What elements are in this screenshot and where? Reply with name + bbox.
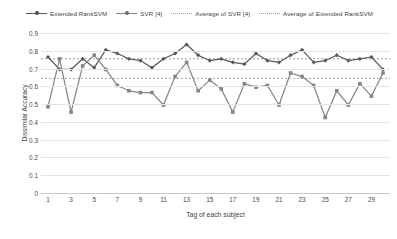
data-point-marker	[46, 105, 50, 109]
legend-label: Average of Extended RankSVM	[283, 10, 373, 17]
x-axis-tick-label: 25	[322, 196, 329, 203]
legend-item-average-svr: Average of SVR [4]	[171, 9, 250, 17]
x-axis-tick-label: 5	[92, 196, 96, 203]
legend-item-extended-ranksvm: Extended RankSVM	[26, 9, 107, 17]
x-axis-tick-label: 29	[368, 196, 375, 203]
y-axis-title: Dissimilar Accuracy	[21, 65, 28, 161]
x-axis-tick-label: 3	[69, 196, 73, 203]
x-axis-tick-label: 9	[139, 196, 143, 203]
data-point-marker	[173, 75, 177, 79]
data-point-marker	[115, 51, 119, 55]
gridline	[41, 33, 390, 34]
gridline	[41, 175, 390, 176]
x-axis-tick-label: 15	[206, 196, 213, 203]
data-point-marker	[243, 82, 247, 86]
x-axis-tick-label: 11	[160, 196, 167, 203]
data-point-marker	[92, 53, 96, 57]
legend-label: Average of SVR [4]	[195, 10, 250, 17]
legend-label: SVR [4]	[140, 10, 162, 17]
gridline	[41, 69, 390, 70]
x-axis-tick-label: 23	[299, 196, 306, 203]
data-point-marker	[358, 57, 362, 61]
data-point-marker	[69, 110, 73, 114]
gridline	[41, 122, 390, 123]
data-point-marker	[127, 89, 131, 93]
x-axis-tick-label: 21	[275, 196, 282, 203]
data-point-marker	[381, 71, 385, 75]
chart-legend: Extended RankSVM SVR [4] Average of SVR …	[26, 9, 373, 17]
x-axis-tick-label: 27	[345, 196, 352, 203]
data-point-marker	[219, 87, 223, 91]
data-point-marker	[300, 75, 304, 79]
gridline	[41, 157, 390, 158]
plot-area	[41, 33, 390, 193]
legend-item-svr: SVR [4]	[116, 9, 162, 17]
data-point-marker	[335, 53, 339, 57]
gridline	[41, 51, 390, 52]
data-point-marker	[150, 91, 154, 95]
gridline	[41, 104, 390, 105]
y-axis-title-wrap: Dissimilar Accuracy	[10, 33, 22, 193]
data-point-marker	[323, 116, 327, 120]
legend-marker-icon	[116, 9, 137, 17]
data-point-marker	[81, 64, 85, 68]
data-series-layer	[41, 33, 390, 193]
x-axis-title: Tag of each subject	[41, 211, 390, 218]
data-point-marker	[185, 61, 189, 65]
series-line	[48, 45, 383, 70]
gridline	[41, 140, 390, 141]
data-point-marker	[335, 89, 339, 93]
data-point-marker	[208, 58, 212, 62]
x-axis-ticks: 1357911131517192123252729	[41, 196, 390, 210]
data-point-marker	[127, 57, 131, 61]
x-axis-tick-label: 13	[183, 196, 190, 203]
x-axis-tick-label: 7	[116, 196, 120, 203]
x-axis-line	[41, 193, 390, 194]
data-point-marker	[219, 57, 223, 61]
legend-dotted-line-icon	[259, 9, 280, 17]
data-point-marker	[231, 110, 235, 114]
data-point-marker	[358, 82, 362, 86]
legend-label: Extended RankSVM	[50, 10, 107, 17]
x-axis-tick-label: 17	[229, 196, 236, 203]
data-point-marker	[139, 91, 143, 95]
data-point-marker	[289, 71, 293, 75]
gridline	[41, 86, 390, 87]
data-point-marker	[58, 57, 62, 61]
chart-figure: Extended RankSVM SVR [4] Average of SVR …	[0, 0, 397, 239]
data-point-marker	[370, 94, 374, 98]
x-axis-tick-label: 1	[46, 196, 50, 203]
data-point-marker	[196, 89, 200, 93]
x-axis-tick-label: 19	[252, 196, 259, 203]
legend-dotted-line-icon	[171, 9, 192, 17]
legend-item-average-extended-ranksvm: Average of Extended RankSVM	[259, 9, 373, 17]
data-point-marker	[231, 60, 235, 64]
data-point-marker	[208, 78, 212, 82]
